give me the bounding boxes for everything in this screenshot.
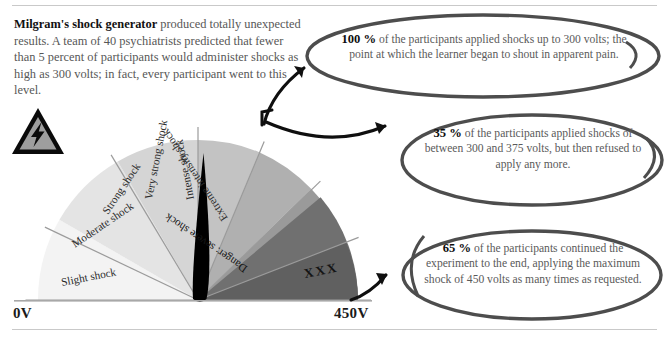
intro-paragraph: Milgram's shock generator produced total… [14, 16, 304, 99]
infographic-canvas: Milgram's shock generator produced total… [0, 0, 669, 343]
top-divider [12, 5, 657, 6]
callout-100-body: of the participants applied shocks up to… [349, 33, 626, 61]
callout-65-percent: 65 % [443, 241, 471, 255]
bottom-divider [12, 329, 657, 330]
callout-100-text: 100 % of the participants applied shocks… [338, 32, 630, 63]
callout-100-percent: 100 % [341, 32, 376, 46]
callout-100: 100 % of the participants applied shocks… [300, 8, 666, 104]
shock-gauge: Slight shock Moderate shock Strong shock… [0, 96, 400, 312]
gauge-min-voltage-label: 0V [13, 305, 32, 322]
gauge-max-voltage-label: 450V [334, 305, 369, 322]
gauge-baseline [14, 300, 372, 302]
callout-65: 65 % of the participants continued the e… [396, 222, 668, 328]
callout-35: 35 % of the participants applied shocks … [396, 108, 668, 212]
callout-35-text: 35 % of the participants applied shocks … [422, 126, 644, 172]
callout-35-percent: 35 % [434, 126, 462, 140]
intro-lead: Milgram's shock generator [14, 17, 157, 31]
callout-65-text: 65 % of the participants continued the e… [418, 241, 648, 287]
